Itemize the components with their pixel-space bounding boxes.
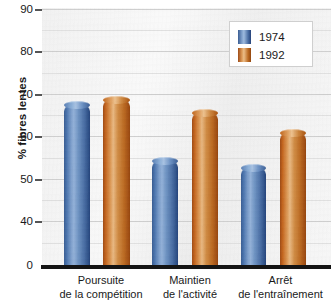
x-axis-category-arret: Arrêt de l'entraînement (223, 273, 331, 301)
y-tick-mark-90 (35, 9, 42, 11)
y-tick-mark-50 (35, 179, 42, 181)
x-axis-category-maintien: Maintien de l'activité (145, 273, 235, 301)
legend-label-1992: 1992 (259, 49, 285, 61)
x-axis-category-arret-line2: de l'entraînement (223, 287, 331, 301)
y-tick-mark-40 (35, 221, 42, 223)
y-tick-label-80: 80 (3, 46, 33, 58)
legend-swatch-1974-icon (238, 30, 251, 44)
bar-1974-maintien (152, 160, 178, 267)
bar-cap-icon (152, 157, 178, 165)
bar-cap-icon (64, 101, 90, 109)
y-tick-label-90: 90 (3, 4, 33, 16)
x-axis-labels: Poursuite de la compétition Maintien de … (42, 271, 331, 301)
legend-item-1992[interactable]: 1992 (238, 47, 285, 62)
y-tick-mark-60 (35, 136, 42, 138)
y-tick-mark-80 (35, 51, 42, 53)
y-tick-label-40: 40 (3, 216, 33, 228)
legend-item-1974[interactable]: 1974 (238, 29, 285, 44)
legend-label-1974: 1974 (259, 31, 285, 43)
y-axis-labels: 90 80 70 60 50 40 0 (0, 0, 33, 301)
gridline-70 (42, 94, 331, 95)
bar-cap-icon (103, 96, 130, 104)
y-tick-label-50: 50 (3, 174, 33, 186)
bar-1974-poursuite (64, 104, 90, 267)
y-tick-label-70: 70 (3, 89, 33, 101)
x-axis-category-maintien-line2: de l'activité (145, 287, 235, 301)
bar-cap-icon (241, 164, 266, 172)
bar-cap-icon (280, 129, 306, 137)
gridline-75 (42, 73, 331, 74)
y-tick-label-0: 0 (3, 260, 33, 272)
bar-cap-icon (192, 109, 218, 117)
x-axis-baseline (41, 265, 331, 269)
x-axis-category-maintien-line1: Maintien (145, 273, 235, 287)
legend-swatch-1992-icon (238, 48, 251, 62)
bar-1974-arret (241, 167, 266, 267)
y-tick-label-60: 60 (3, 131, 33, 143)
x-axis-category-arret-line1: Arrêt (223, 273, 331, 287)
y-tick-mark-70 (35, 94, 42, 96)
bar-1992-arret (280, 132, 306, 267)
bar-1992-poursuite (103, 99, 130, 267)
bar-1992-maintien (192, 112, 218, 267)
bar-chart: % fibres lentes 90 80 70 60 50 40 0 (0, 0, 331, 301)
gridline-90 (42, 9, 331, 10)
legend: 1974 1992 (229, 21, 313, 67)
